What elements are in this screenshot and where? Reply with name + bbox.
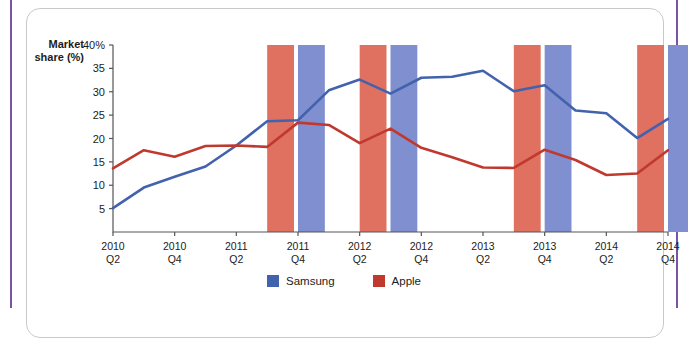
legend-item-samsung[interactable]: Samsung <box>267 275 335 287</box>
highlight-band-apple <box>267 45 294 232</box>
legend-swatch-icon <box>267 275 279 287</box>
highlight-band-samsung <box>545 45 572 232</box>
legend-item-apple[interactable]: Apple <box>373 275 421 287</box>
legend-swatch-icon <box>373 275 385 287</box>
legend-label: Samsung <box>286 275 335 287</box>
highlight-band-samsung <box>298 45 325 232</box>
highlight-band-samsung <box>668 45 688 232</box>
legend-label: Apple <box>392 275 421 287</box>
chart-legend: SamsungApple <box>0 275 688 287</box>
highlight-band-apple <box>637 45 664 232</box>
highlight-band-apple <box>514 45 541 232</box>
highlight-band-apple <box>360 45 387 232</box>
